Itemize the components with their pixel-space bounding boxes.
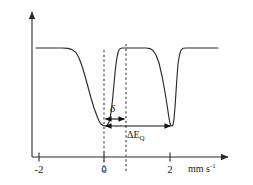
quadrupole-splitting-symbol-main: ΔE bbox=[127, 129, 140, 140]
isomer-shift-symbol: δ bbox=[110, 103, 115, 114]
plot-canvas bbox=[0, 0, 253, 185]
quadrupole-splitting-symbol-sub: Q bbox=[140, 134, 145, 142]
mossbauer-spectrum-figure: -2 0 2 mm s-1 δ ΔEQ bbox=[0, 0, 253, 185]
x-axis-unit-label: mm s-1 bbox=[188, 164, 216, 174]
spectrum-curve bbox=[36, 48, 218, 126]
x-tick-label--2: -2 bbox=[29, 164, 49, 175]
x-tick-label-2: 2 bbox=[161, 164, 179, 175]
x-axis-unit-exponent: -1 bbox=[210, 162, 216, 170]
x-tick-label-0: 0 bbox=[95, 164, 113, 175]
x-axis-unit-main: mm s bbox=[188, 163, 210, 174]
quadrupole-splitting-symbol: ΔEQ bbox=[127, 130, 145, 140]
